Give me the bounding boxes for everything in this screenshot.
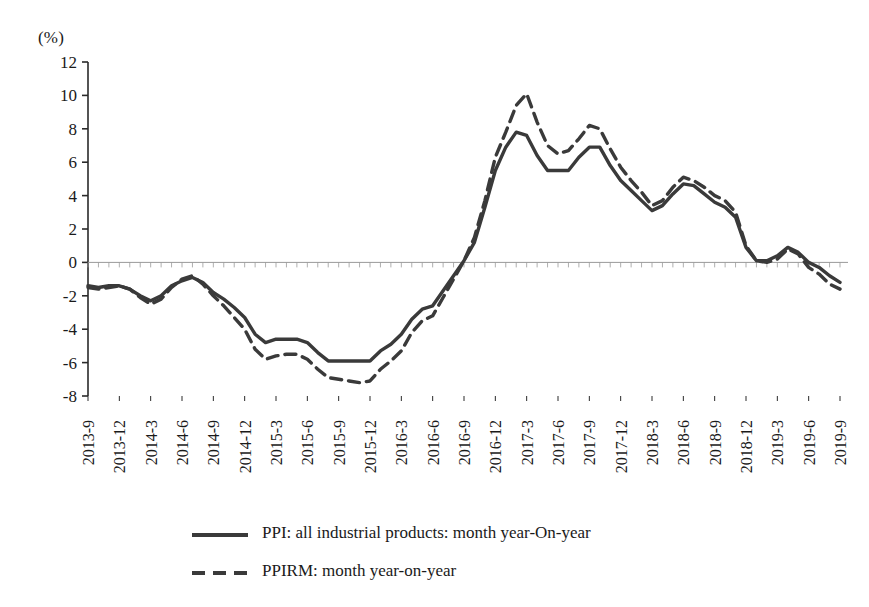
x-tick-label: 2014-9	[205, 420, 222, 465]
y-tick-label: 4	[69, 187, 78, 206]
x-tick-label: 2016-12	[487, 420, 504, 473]
zero-line	[88, 262, 848, 267]
x-tick-label: 2015-6	[299, 420, 316, 465]
y-tick-label: 12	[60, 53, 77, 72]
legend-label-ppirm: PPIRM: month year-on-year	[262, 561, 456, 581]
series-line-ppirm	[88, 94, 840, 383]
x-tick-label: 2016-9	[456, 420, 473, 465]
ppi-line-chart: (%) 121086420-2-4-6-8 2013-92013-122014-…	[0, 0, 869, 607]
x-tick-label: 2014-6	[174, 420, 191, 465]
x-tick-label: 2019-6	[801, 420, 818, 465]
x-tick-label: 2015-3	[268, 420, 285, 465]
chart-plot-area: 121086420-2-4-6-8 2013-92013-122014-3201…	[0, 0, 869, 607]
x-tick-label: 2013-9	[80, 420, 97, 465]
legend-label-ppi: PPI: all industrial products: month year…	[262, 523, 591, 543]
y-tick-label: 10	[60, 86, 77, 105]
y-tick-label: -6	[63, 354, 77, 373]
x-tick-label: 2018-3	[644, 420, 661, 465]
y-tick-label: 8	[69, 120, 78, 139]
y-axis-unit-label: (%)	[38, 28, 64, 48]
x-tick-label: 2017-3	[519, 420, 536, 465]
series-line-ppi	[88, 132, 840, 361]
legend-swatch-ppirm	[192, 571, 248, 575]
y-tick-label: -8	[63, 387, 77, 406]
x-tick-label: 2017-12	[613, 420, 630, 473]
x-axis	[88, 396, 840, 401]
x-tick-label: 2017-9	[581, 420, 598, 465]
y-tick-label: -4	[63, 320, 78, 339]
x-tick-label: 2013-12	[111, 420, 128, 473]
x-tick-label: 2016-6	[425, 420, 442, 465]
x-tick-label: 2015-9	[331, 420, 348, 465]
y-tick-label: 2	[69, 220, 78, 239]
x-tick-label: 2018-9	[707, 420, 724, 465]
data-series-group	[88, 94, 840, 383]
x-tick-label: 2019-3	[769, 420, 786, 465]
x-tick-label: 2019-9	[832, 420, 849, 465]
y-axis: 121086420-2-4-6-8	[60, 53, 88, 406]
x-tick-labels: 2013-92013-122014-32014-62014-92014-1220…	[80, 420, 849, 473]
y-tick-label: 0	[69, 253, 78, 272]
y-tick-label: 6	[69, 153, 78, 172]
x-tick-label: 2017-6	[550, 420, 567, 465]
x-tick-label: 2018-6	[675, 420, 692, 465]
x-tick-label: 2014-12	[237, 420, 254, 473]
x-tick-label: 2015-12	[362, 420, 379, 473]
y-tick-label: -2	[63, 287, 77, 306]
legend-swatch-ppi	[192, 533, 248, 537]
x-tick-label: 2018-12	[738, 420, 755, 473]
x-tick-label: 2014-3	[143, 420, 160, 465]
x-tick-label: 2016-3	[393, 420, 410, 465]
